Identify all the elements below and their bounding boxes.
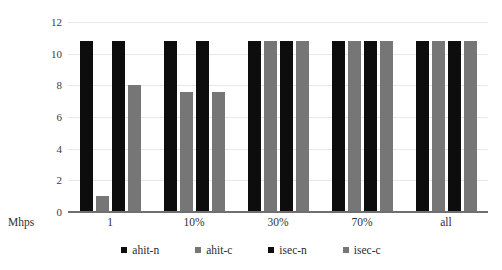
bar <box>332 41 345 212</box>
bar <box>464 41 477 212</box>
legend-label: isec-c <box>354 244 381 256</box>
plot-area <box>68 22 488 212</box>
bar <box>180 92 193 212</box>
bar-groups <box>68 22 488 212</box>
legend-swatch-icon <box>195 247 201 253</box>
bar-group <box>152 22 236 212</box>
legend-item[interactable]: ahit-n <box>121 244 159 256</box>
bar <box>416 41 429 212</box>
bar-group <box>320 22 404 212</box>
y-axis-tick-label: 4 <box>22 143 62 155</box>
x-axis-title: Mhps <box>8 216 66 228</box>
bar <box>196 41 209 212</box>
chart-top-edge <box>0 0 502 2</box>
legend-swatch-icon <box>268 247 274 253</box>
legend-swatch-icon <box>343 247 349 253</box>
bar <box>212 92 225 212</box>
y-axis-tick-label: 12 <box>22 16 62 28</box>
legend-swatch-icon <box>121 247 127 253</box>
bar <box>432 41 445 212</box>
y-axis-tick-label: 8 <box>22 79 62 91</box>
bar <box>364 41 377 212</box>
bar <box>96 196 109 212</box>
x-axis-tick-label: 70% <box>320 216 404 228</box>
chart-legend: ahit-nahit-cisec-nisec-c <box>0 244 502 256</box>
bar <box>80 41 93 212</box>
y-axis-tick-label: 6 <box>22 111 62 123</box>
bar-chart: 024681012 Mhps 110%30%70%all ahit-nahit-… <box>0 0 502 270</box>
legend-item[interactable]: isec-n <box>268 244 306 256</box>
bar <box>280 41 293 212</box>
bar <box>248 41 261 212</box>
y-axis-tick-label: 10 <box>22 48 62 60</box>
bar <box>448 41 461 212</box>
x-axis-tick-label: all <box>404 216 488 228</box>
x-axis-tick-labels: 110%30%70%all <box>68 216 488 228</box>
bar <box>164 41 177 212</box>
bar <box>348 41 361 212</box>
bar-group <box>68 22 152 212</box>
legend-label: ahit-n <box>132 244 159 256</box>
bar <box>264 41 277 212</box>
bar <box>380 41 393 212</box>
x-axis-tick-label: 1 <box>68 216 152 228</box>
bar-group <box>404 22 488 212</box>
bar <box>128 85 141 212</box>
legend-label: isec-n <box>279 244 306 256</box>
legend-label: ahit-c <box>206 244 232 256</box>
legend-item[interactable]: ahit-c <box>195 244 232 256</box>
x-axis-tick-label: 30% <box>236 216 320 228</box>
y-axis-tick-label: 2 <box>22 174 62 186</box>
legend-item[interactable]: isec-c <box>343 244 381 256</box>
bar <box>296 41 309 212</box>
x-axis-line <box>68 211 488 213</box>
bar-group <box>236 22 320 212</box>
x-axis-tick-label: 10% <box>152 216 236 228</box>
bar <box>112 41 125 212</box>
